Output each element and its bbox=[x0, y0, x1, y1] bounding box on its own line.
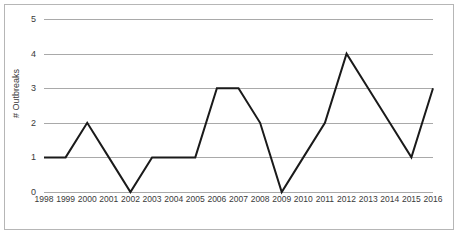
x-tick-label-2010: 2010 bbox=[294, 195, 313, 204]
x-tick-label-2000: 2000 bbox=[78, 195, 97, 204]
line-series-outbreaks bbox=[44, 19, 433, 192]
x-tick-label-2016: 2016 bbox=[424, 195, 443, 204]
x-tick-label-2012: 2012 bbox=[337, 195, 356, 204]
x-tick-label-2011: 2011 bbox=[316, 195, 334, 204]
x-tick-label-2005: 2005 bbox=[186, 195, 205, 204]
x-tick-label-2009: 2009 bbox=[272, 195, 291, 204]
x-tick-label-2003: 2003 bbox=[143, 195, 162, 204]
plot-area bbox=[44, 19, 433, 192]
y-tick-label-2: 2 bbox=[31, 118, 36, 127]
gridline-y-0 bbox=[44, 192, 433, 193]
y-tick-label-1: 1 bbox=[31, 153, 36, 162]
x-tick-label-2006: 2006 bbox=[207, 195, 226, 204]
x-tick-label-1998: 1998 bbox=[35, 195, 54, 204]
x-tick-label-2002: 2002 bbox=[121, 195, 140, 204]
x-tick-label-2007: 2007 bbox=[229, 195, 248, 204]
x-tick-label-2004: 2004 bbox=[164, 195, 183, 204]
y-tick-label-3: 3 bbox=[31, 84, 36, 93]
x-tick-label-1999: 1999 bbox=[56, 195, 75, 204]
chart-figure: # Outbreaks 012345 199819992000200120022… bbox=[0, 0, 459, 235]
x-tick-label-2001: 2001 bbox=[99, 195, 118, 204]
y-tick-label-4: 4 bbox=[31, 49, 36, 58]
x-tick-label-2014: 2014 bbox=[380, 195, 399, 204]
x-tick-label-2015: 2015 bbox=[402, 195, 421, 204]
y-axis-title: # Outbreaks bbox=[12, 69, 21, 118]
x-tick-label-2008: 2008 bbox=[251, 195, 270, 204]
y-tick-label-5: 5 bbox=[31, 15, 36, 24]
x-tick-label-2013: 2013 bbox=[359, 195, 378, 204]
